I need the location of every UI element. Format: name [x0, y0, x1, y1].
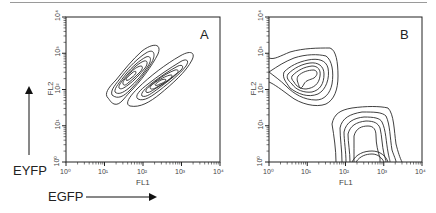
panel-a-xtick-4: 10⁴ [213, 168, 224, 175]
panel-b-xtick-0: 10⁰ [263, 168, 274, 176]
panel-a-ytick-3: 10³ [54, 46, 61, 56]
panel-a-xtick-0: 10⁰ [60, 168, 71, 176]
panel-b-ytick-0: 10⁰ [256, 156, 264, 167]
panel-a-ytick-2: 10² [54, 83, 61, 93]
panel-a-xtick-2: 10² [137, 168, 147, 175]
figure-canvas [0, 0, 436, 213]
panel-b-xtick-3: 10³ [377, 168, 387, 175]
panel-b-ytick-4: 10⁴ [257, 10, 264, 21]
panel-b-xlabel: FL1 [339, 178, 353, 187]
panel-a-plot [62, 17, 220, 166]
panel-b-letter: B [400, 27, 409, 42]
panel-b-ytick-2: 10² [257, 83, 264, 93]
eyfp-label: EYFP [13, 163, 47, 178]
panel-a-ytick-1: 10¹ [54, 119, 61, 129]
panel-a-xlabel: FL1 [136, 178, 150, 187]
panel-b-plot [265, 17, 422, 166]
panel-b-ytick-1: 10¹ [257, 119, 264, 129]
egfp-label: EGFP [48, 189, 83, 204]
panel-a-xtick-1: 10¹ [98, 168, 108, 175]
panel-a-frame [66, 17, 220, 162]
panel-a-ytick-0: 10⁰ [53, 156, 61, 167]
panel-a-xtick-3: 10³ [175, 168, 185, 175]
panel-a-ytick-4: 10⁴ [54, 10, 61, 21]
panel-b-xtick-1: 10¹ [301, 168, 311, 175]
panel-b-ytick-3: 10³ [257, 46, 264, 56]
panel-b-xtick-2: 10² [339, 168, 349, 175]
panel-a-letter: A [200, 27, 209, 42]
panel-b-xtick-4: 10⁴ [415, 168, 426, 175]
